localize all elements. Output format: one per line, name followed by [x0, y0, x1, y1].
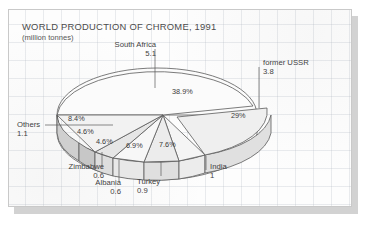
label-india-value: 1 [210, 171, 227, 180]
label-india-name: India [210, 162, 227, 171]
label-turkey-value: 0.9 [137, 186, 160, 195]
label-zimbabwe-name: Zimbabwe [69, 162, 104, 171]
label-turkey-name: Turkey [137, 177, 160, 186]
label-former-ussr-value: 3.8 [263, 67, 309, 76]
label-india: India 1 [210, 162, 227, 181]
percent-others: 8.4% [68, 114, 85, 123]
percent-albania: 4.6% [96, 137, 113, 146]
percent-south-africa: 38.9% [172, 87, 193, 96]
label-albania-value: 0.6 [49, 187, 121, 196]
percent-india: 7.6% [159, 140, 176, 149]
chart-panel: WORLD PRODUCTION OF CHROME, 1991 (millio… [8, 9, 352, 207]
percent-turkey: 6.9% [126, 141, 143, 150]
label-former-ussr-name: former USSR [263, 58, 309, 67]
label-others-value: 1.1 [17, 129, 40, 138]
label-south-africa: South Africa 5.1 [86, 40, 156, 59]
percent-former-ussr: 29% [231, 111, 246, 120]
percent-zimbabwe: 4.6% [77, 127, 94, 136]
screenshot-root: WORLD PRODUCTION OF CHROME, 1991 (millio… [0, 0, 365, 225]
label-albania-name: Albania [95, 178, 121, 187]
label-former-ussr: former USSR 3.8 [263, 58, 309, 77]
label-others-name: Others [17, 120, 40, 129]
label-albania: Albania 0.6 [49, 178, 121, 197]
label-others: Others 1.1 [17, 120, 40, 139]
label-south-africa-value: 5.1 [86, 49, 156, 58]
label-south-africa-name: South Africa [115, 40, 156, 49]
label-turkey: Turkey 0.9 [137, 177, 160, 196]
